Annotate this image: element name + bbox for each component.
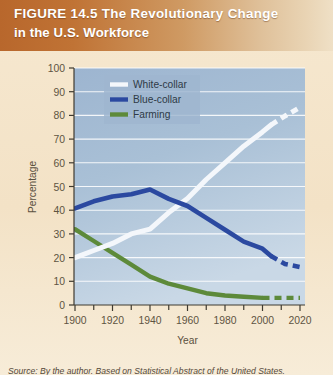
y-tick-label: 40 <box>53 205 65 216</box>
chart-legend: White-collar Blue-collar Farming <box>104 75 200 124</box>
x-tick-label: 2000 <box>251 315 274 326</box>
y-tick-label: 20 <box>53 253 65 264</box>
y-tick-label: 80 <box>53 110 65 121</box>
figure-source-caption: Source: By the author. Based on Statisti… <box>0 366 333 375</box>
figure-header-banner: FIGURE 14.5 The Revolutionary Change in … <box>0 0 333 51</box>
line-chart: White-collar Blue-collar Farming <box>0 51 333 375</box>
legend-label-white-collar: White-collar <box>133 79 187 90</box>
figure-number: FIGURE 14.5 The Revolutionary Change <box>14 6 279 21</box>
figure-14-5: FIGURE 14.5 The Revolutionary Change in … <box>0 0 333 375</box>
legend-label-farming: Farming <box>133 109 171 120</box>
x-tick-marks <box>75 305 300 311</box>
y-tick-label: 10 <box>53 276 65 287</box>
x-tick-label: 2020 <box>288 315 311 326</box>
x-tick-label: 1960 <box>176 315 199 326</box>
x-axis-title: Year <box>177 335 198 346</box>
chart-container: White-collar Blue-collar Farming <box>0 51 333 375</box>
x-tick-label: 1920 <box>101 315 124 326</box>
y-tick-label: 30 <box>53 229 65 240</box>
y-tick-label: 60 <box>53 158 65 169</box>
y-tick-label: 100 <box>48 63 66 74</box>
legend-label-blue-collar: Blue-collar <box>133 94 182 105</box>
y-tick-label: 0 <box>59 300 65 311</box>
source-text: Source: By the author. Based on Statisti… <box>8 366 285 375</box>
x-tick-label: 1940 <box>138 315 161 326</box>
x-tick-label: 1980 <box>213 315 236 326</box>
y-tick-label: 50 <box>53 182 65 193</box>
y-tick-label: 70 <box>53 134 65 145</box>
y-tick-labels: 100 90 80 70 60 50 40 30 20 10 0 <box>48 63 66 311</box>
figure-title: FIGURE 14.5 The Revolutionary Change in … <box>14 5 323 42</box>
x-tick-label: 1900 <box>63 315 86 326</box>
y-tick-label: 90 <box>53 87 65 98</box>
figure-title-line2: in the U.S. Workforce <box>14 25 149 40</box>
y-tick-marks <box>69 68 74 305</box>
y-axis-title: Percentage <box>27 161 38 213</box>
x-tick-labels: 1900 1920 1940 1960 1980 2000 2020 <box>63 315 311 326</box>
